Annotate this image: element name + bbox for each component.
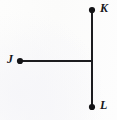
point-dot-k bbox=[89, 7, 95, 13]
point-label-k: K bbox=[100, 2, 108, 14]
geometry-figure: K J L bbox=[0, 0, 117, 120]
point-dot-l bbox=[89, 104, 95, 110]
point-dot-j bbox=[17, 58, 23, 64]
point-label-l: L bbox=[100, 99, 107, 111]
point-label-j: J bbox=[7, 53, 13, 65]
